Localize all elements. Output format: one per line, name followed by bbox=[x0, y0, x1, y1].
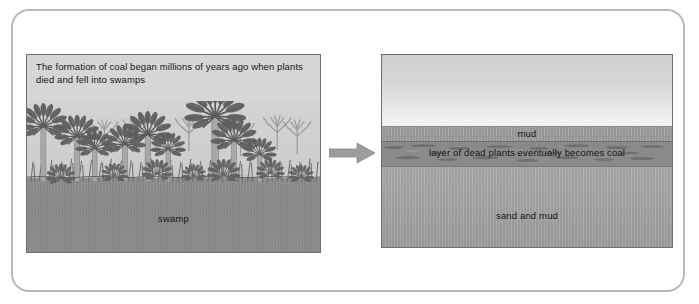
right-arrow-icon bbox=[329, 141, 375, 165]
swamp-caption-text: The formation of coal began millions of … bbox=[36, 61, 312, 86]
swamp-shoreline bbox=[27, 174, 320, 180]
dead-plants-label: layer of dead plants eventually becomes … bbox=[382, 147, 672, 158]
sand-and-mud-label: sand and mud bbox=[382, 210, 672, 221]
sand-and-mud-layer bbox=[382, 167, 672, 247]
figure-root: swamp The formation of coal began millio… bbox=[0, 0, 699, 304]
mud-label: mud bbox=[382, 128, 672, 139]
swamp-caption-band: The formation of coal began millions of … bbox=[27, 55, 320, 101]
panel-strata-cross-section: mud layer of dead plants eventually beco… bbox=[381, 54, 673, 248]
panel-swamp-scene: swamp The formation of coal began millio… bbox=[26, 54, 321, 253]
water-layer bbox=[382, 55, 672, 126]
swamp-label: swamp bbox=[27, 213, 320, 224]
